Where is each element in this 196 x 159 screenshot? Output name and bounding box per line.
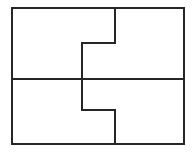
figure-canvas: [0, 0, 196, 159]
geometric-figure: [0, 0, 196, 159]
